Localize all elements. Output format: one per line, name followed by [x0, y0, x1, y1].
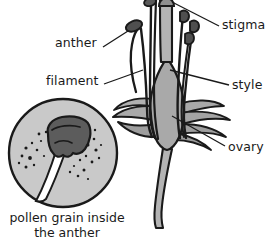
filament-stalk-labelled: [131, 30, 137, 92]
flower-diagram-illustration: [0, 0, 269, 245]
anther-right-2: [190, 21, 199, 33]
stigma-shape: [159, 0, 174, 6]
inset-caption-line-2: the anther: [0, 226, 134, 241]
style-shape: [160, 0, 172, 62]
inset-caption-line-1: pollen grain inside: [0, 211, 134, 226]
anther-right-1: [180, 11, 189, 23]
stem-shape: [154, 148, 172, 228]
leader-line-filament: [104, 70, 143, 84]
diagram-canvas: anther filament stigma style ovary polle…: [0, 0, 269, 245]
inset-anther-body: [48, 116, 91, 156]
sepal-right-middle: [180, 112, 230, 124]
label-filament: filament: [46, 74, 99, 88]
anther-right-3: [185, 33, 194, 45]
pollen-inset-figure: [9, 99, 117, 207]
label-style: style: [232, 78, 262, 92]
label-ovary: ovary: [228, 140, 264, 154]
label-anther: anther: [55, 36, 97, 50]
leader-line-anther: [103, 31, 128, 47]
flower-figure: [103, 0, 230, 228]
label-stigma: stigma: [222, 18, 265, 32]
inset-caption: pollen grain inside the anther: [0, 211, 134, 241]
